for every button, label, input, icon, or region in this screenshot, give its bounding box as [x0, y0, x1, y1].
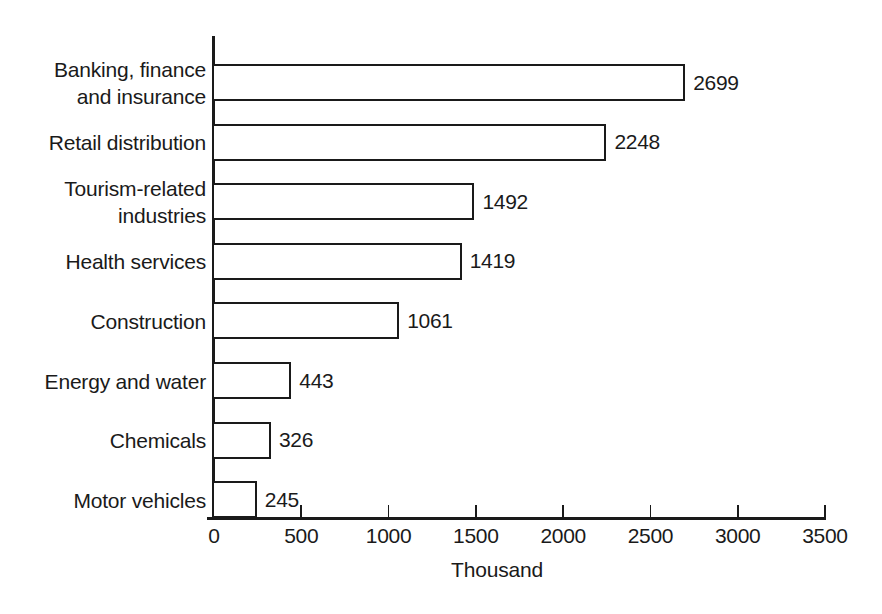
bar-7 [214, 481, 257, 518]
x-tick-500 [300, 505, 302, 518]
category-label-1: Retail distribution [49, 129, 206, 156]
bar-3 [214, 243, 462, 280]
category-label-4: Construction [91, 307, 207, 334]
bar-5 [214, 362, 291, 399]
x-tick-label-1000: 1000 [366, 524, 412, 548]
x-tick-1000 [388, 505, 390, 518]
bar-value-4: 1061 [407, 309, 453, 333]
bar-value-2: 1492 [482, 190, 528, 214]
bar-chart-plot-area: 0500100015002000250030003500 26992248149… [0, 0, 882, 614]
category-label-6: Chemicals [110, 427, 206, 454]
bar-value-0: 2699 [693, 71, 739, 95]
x-tick-2500 [650, 505, 652, 518]
x-tick-3000 [737, 505, 739, 518]
bar-value-6: 326 [279, 428, 313, 452]
x-axis-title: Thousand [0, 558, 882, 582]
category-label-5: Energy and water [45, 367, 206, 394]
x-tick-label-2000: 2000 [540, 524, 586, 548]
bar-6 [214, 422, 271, 459]
chart-page: 0500100015002000250030003500 26992248149… [0, 0, 882, 614]
bar-1 [214, 124, 606, 161]
x-tick-label-1500: 1500 [453, 524, 499, 548]
bar-4 [214, 302, 399, 339]
category-label-3: Health services [65, 248, 206, 275]
x-tick-1500 [475, 505, 477, 518]
x-tick-3500 [824, 505, 826, 518]
x-tick-label-0: 0 [208, 524, 219, 548]
bar-value-5: 443 [299, 369, 333, 393]
x-tick-label-2500: 2500 [628, 524, 674, 548]
category-label-0: Banking, finance and insurance [54, 56, 206, 110]
bar-2 [214, 183, 474, 220]
category-label-7: Motor vehicles [73, 486, 206, 513]
x-tick-label-500: 500 [284, 524, 318, 548]
x-tick-label-3000: 3000 [715, 524, 761, 548]
bar-value-1: 2248 [614, 130, 660, 154]
x-axis-title-text: Thousand [451, 558, 543, 581]
bar-value-3: 1419 [470, 249, 516, 273]
x-tick-label-3500: 3500 [802, 524, 848, 548]
bar-0 [214, 64, 685, 101]
x-tick-2000 [562, 505, 564, 518]
bar-value-7: 245 [265, 488, 299, 512]
category-label-2: Tourism-related industries [64, 175, 206, 229]
